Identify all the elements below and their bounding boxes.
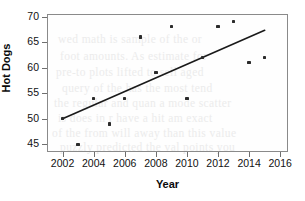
data-point bbox=[76, 143, 79, 146]
data-point bbox=[232, 20, 235, 23]
x-tick-mark bbox=[249, 152, 250, 157]
data-point bbox=[108, 122, 111, 125]
x-tick-label: 2008 bbox=[139, 157, 173, 169]
x-tick-mark bbox=[94, 152, 95, 157]
x-tick-label: 2004 bbox=[77, 157, 111, 169]
x-tick-label: 2006 bbox=[108, 157, 142, 169]
x-axis-title: Year bbox=[47, 178, 288, 190]
data-point bbox=[201, 56, 204, 59]
x-tick-mark bbox=[187, 152, 188, 157]
x-tick-mark bbox=[125, 152, 126, 157]
data-point bbox=[61, 117, 64, 120]
data-point bbox=[123, 97, 126, 100]
x-tick-mark bbox=[218, 152, 219, 157]
data-point bbox=[170, 25, 173, 28]
data-point bbox=[247, 61, 250, 64]
x-tick-label: 2010 bbox=[170, 157, 204, 169]
data-point bbox=[263, 56, 266, 59]
x-tick-mark bbox=[280, 152, 281, 157]
x-tick-mark bbox=[156, 152, 157, 157]
x-tick-label: 2014 bbox=[232, 157, 266, 169]
data-point bbox=[154, 71, 157, 74]
data-point bbox=[139, 35, 142, 38]
data-point bbox=[92, 97, 95, 100]
trendline bbox=[0, 0, 305, 201]
data-point bbox=[185, 97, 188, 100]
x-tick-label: 2002 bbox=[46, 157, 80, 169]
data-point bbox=[216, 25, 219, 28]
x-tick-label: 2016 bbox=[263, 157, 297, 169]
x-tick-label: 2012 bbox=[201, 157, 235, 169]
x-tick-mark bbox=[63, 152, 64, 157]
hot-dogs-scatter-chart: wed math is sample of the or foot amount… bbox=[0, 0, 305, 201]
